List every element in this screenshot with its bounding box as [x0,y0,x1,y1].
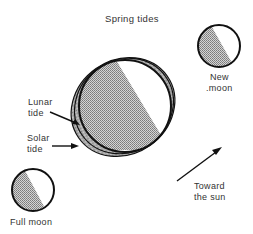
sun-direction-label-line2: the sun [194,192,226,203]
new-moon [195,20,240,70]
new-moon-label-line1: New [210,72,229,83]
lunar-tide-label-line2: tide [28,108,44,119]
solar-tide-label-line2: tide [27,144,43,155]
solar-tide-label-line1: Solar [27,133,50,144]
full-moon [8,165,54,214]
solar-tide-arrow [52,143,79,149]
sun-direction-arrow [177,147,222,181]
sun-direction-label-line1: Toward [194,181,225,192]
full-moon-label: Full moon [10,217,52,228]
lunar-tide-label-line1: Lunar [28,97,53,108]
new-moon-label-line2: .moon [206,83,233,94]
diagram-title: Spring tides [105,13,159,24]
